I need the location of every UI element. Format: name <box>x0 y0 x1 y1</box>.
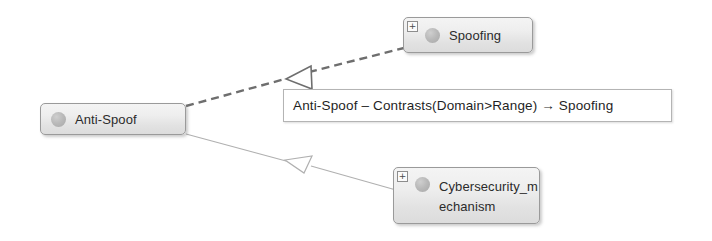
solid-connector-line-upper <box>311 166 396 190</box>
dashed-connector-line-upper <box>309 48 404 72</box>
hollow-triangle-arrowhead-icon-2 <box>285 156 312 173</box>
dashed-connector-line <box>186 79 285 106</box>
diagram-canvas: Anti-Spoof + Spoofing + Cybersecurity_m … <box>0 0 712 241</box>
node-spoofing-label: Spoofing <box>449 27 501 44</box>
node-anti-spoof-label: Anti-Spoof <box>75 111 137 128</box>
node-spoofing[interactable]: + Spoofing <box>403 17 533 53</box>
connector-cybersecurity-mechanism-to-anti-spoof[interactable] <box>186 134 396 190</box>
entity-circle-icon <box>425 28 440 43</box>
solid-connector-line-lower <box>186 134 286 161</box>
hollow-triangle-arrowhead-icon <box>286 66 312 89</box>
relation-label-box: Anti-Spoof – Contrasts(Domain>Range) → S… <box>283 89 672 122</box>
entity-circle-icon <box>415 177 430 192</box>
expand-plus-icon[interactable]: + <box>407 21 418 32</box>
relation-label-text: Anti-Spoof – Contrasts(Domain>Range) → S… <box>293 98 613 113</box>
node-cybersecurity-mechanism-label: Cybersecurity_m echanism <box>439 177 538 217</box>
node-cybersecurity-mechanism[interactable]: + Cybersecurity_m echanism <box>393 167 540 224</box>
expand-plus-icon[interactable]: + <box>397 171 408 182</box>
entity-circle-icon <box>51 112 66 127</box>
node-anti-spoof[interactable]: Anti-Spoof <box>40 103 186 135</box>
